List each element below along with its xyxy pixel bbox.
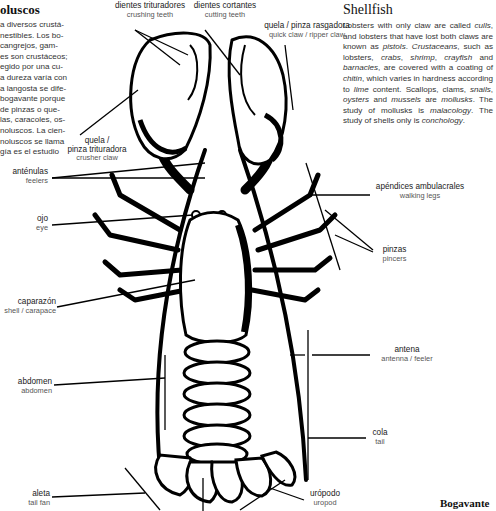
label-crusher-claw: quela / pinza trituradora crusher claw [62, 137, 132, 162]
italic-term: lime [354, 85, 369, 94]
italic-term: malacology [430, 106, 471, 115]
text-run: and [369, 95, 391, 104]
left-line: bogavante porque [0, 94, 100, 105]
text-run: . [463, 116, 465, 125]
label-feelers: anténulas feelers [0, 168, 48, 184]
italic-term: pistols [383, 42, 406, 51]
right-paragraph: Lobsters with only claw are called culls… [343, 21, 493, 127]
text-run: , are covered with a coating of [378, 63, 493, 72]
italic-term: mollusks [441, 95, 472, 104]
right-column: Shellfish Lobsters with only claw are ca… [343, 2, 493, 127]
left-line: cangrejos, gam- [0, 41, 100, 52]
italic-term: crayfish [444, 53, 472, 62]
italic-term: culls [475, 21, 491, 30]
left-column: oluscos a diversos crustá- nestibles. Lo… [0, 2, 100, 158]
text-run: , [435, 53, 445, 62]
right-heading: Shellfish [343, 2, 493, 18]
label-eye: ojo eye [0, 215, 48, 231]
left-heading: oluscos [0, 2, 100, 18]
label-walking-legs: apéndices ambulacrales walking legs [365, 183, 475, 199]
text-run: Lobsters with only claw are called [343, 21, 475, 30]
italic-term: Crustaceans [412, 42, 457, 51]
left-line: es son crustáceos; [0, 52, 100, 63]
label-abdomen: abdomen abdomen [0, 378, 52, 394]
text-run: content. Scallops, clams, [369, 85, 470, 94]
label-ripper-claw: quela / pinza rasgadora quick claw / rip… [262, 22, 352, 38]
left-line: las, caracoles, os- [0, 115, 100, 126]
label-cutting-teeth: dientes cortantes cutting teeth [175, 2, 275, 18]
label-tail: cola tail [362, 429, 398, 445]
text-run: , [401, 53, 411, 62]
italic-term: mussels [391, 95, 421, 104]
italic-term: barnacles [343, 63, 378, 72]
italic-term: crabs [381, 53, 401, 62]
left-line: de pinzas o que- [0, 105, 100, 116]
italic-term: oysters [343, 95, 369, 104]
left-line: a diversos crustá- [0, 20, 100, 31]
label-antenna: antena antenna / feeler [362, 346, 452, 362]
left-line: egido por una cu- [0, 62, 100, 73]
label-uropod: urópodo uropod [300, 490, 350, 506]
text-run: are [421, 95, 441, 104]
text-run: and [472, 53, 493, 62]
italic-term: shrimp [410, 53, 434, 62]
left-line: nestibles. Los bo- [0, 31, 100, 42]
text-run: , [491, 85, 493, 94]
footer-title: Bogavante [440, 497, 490, 509]
left-line: a langosta se dife- [0, 84, 100, 95]
italic-term: conchology [422, 116, 463, 125]
italic-term: chitin [343, 74, 362, 83]
left-line: noluscos. La cien- [0, 126, 100, 137]
left-line: a dureza varía con [0, 73, 100, 84]
label-pincers: pinzas pincers [372, 246, 417, 262]
italic-term: snails [470, 85, 491, 94]
label-carapace: caparazón shell / carapace [0, 298, 56, 314]
label-tail-fan: aleta tail fan [0, 490, 50, 506]
